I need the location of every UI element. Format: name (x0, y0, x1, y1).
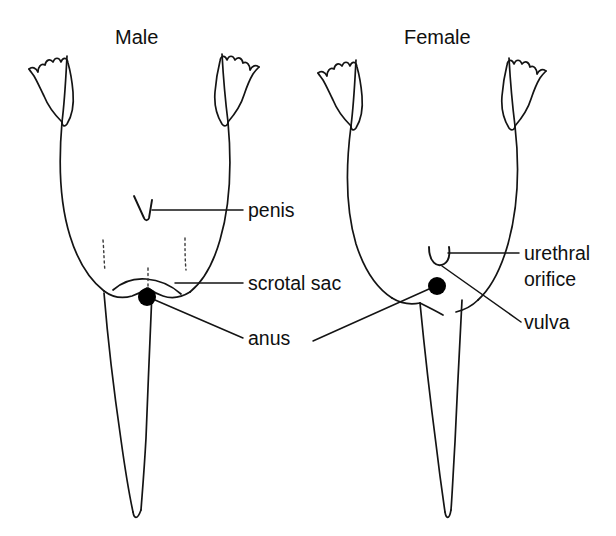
male-anus-leader-line (155, 300, 243, 338)
label-scrotal-sac: scrotal sac (248, 272, 341, 295)
female-right-leg-upper (509, 58, 515, 126)
male-left-inner-thigh (104, 293, 133, 512)
female-left-leg-upper (351, 60, 356, 126)
female-left-paw-outline (318, 73, 351, 126)
male-right-leg-outline (190, 122, 230, 292)
female-left-paw (318, 60, 362, 130)
female-heading: Female (404, 26, 471, 50)
female-right-inner-thigh (451, 300, 462, 510)
female-tail-tip (445, 510, 451, 517)
female-right-paw-pad (502, 60, 546, 130)
vulva-leader-line (442, 266, 521, 322)
label-penis: penis (248, 199, 295, 222)
female-anus-dot (428, 277, 446, 295)
male-heading: Male (115, 26, 158, 50)
male-left-leg-outline (60, 122, 104, 291)
female-right-leg-outline (478, 126, 518, 300)
anatomy-figure: Male Female penis scrotal sac anus ureth… (0, 0, 616, 536)
female-urethral-orifice-marker (429, 247, 449, 265)
male-left-paw-outline (29, 69, 62, 122)
male-scrotal-dotted-right (185, 238, 186, 270)
female-perineum-curve (420, 303, 443, 315)
male-right-leg-upper (222, 54, 228, 122)
male-penis-marker (134, 196, 152, 220)
female-left-inner-thigh (420, 303, 445, 512)
female-figure (313, 58, 546, 517)
male-right-inner-thigh (141, 292, 152, 510)
male-left-leg-upper (62, 56, 67, 122)
female-right-paw-outline (515, 71, 546, 126)
female-left-leg-outline (347, 126, 392, 298)
female-anus-leader-line (313, 289, 429, 341)
label-urethral-orifice-line2: orifice (524, 268, 576, 291)
female-right-groin-curve (456, 300, 478, 312)
female-right-paw (502, 58, 546, 130)
male-right-paw (215, 54, 259, 126)
male-right-paw-pad (215, 56, 259, 126)
male-tail-tip (133, 510, 141, 517)
male-figure (29, 54, 259, 517)
label-urethral-orifice-line1: urethral (524, 242, 590, 265)
label-vulva: vulva (524, 311, 570, 334)
male-anus-dot (138, 288, 156, 306)
male-left-paw (29, 56, 73, 126)
label-anus: anus (248, 327, 290, 350)
male-right-paw-outline (228, 67, 259, 122)
male-scrotal-dotted-left (103, 240, 105, 271)
